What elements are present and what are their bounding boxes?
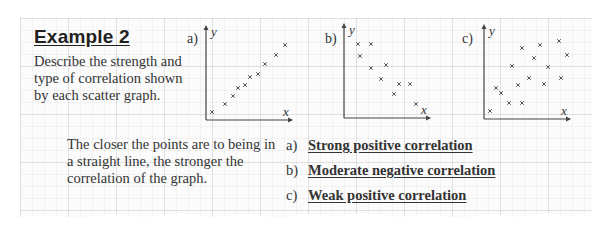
data-point-cross-icon [210,110,214,114]
data-point-cross-icon [236,86,240,90]
data-point-cross-icon [283,43,287,47]
data-point-cross-icon [507,101,511,105]
answer-letter: a) [286,137,308,154]
x-axis-label: x [560,103,567,118]
data-point-cross-icon [559,76,563,80]
data-point-cross-icon [542,82,546,86]
data-point-cross-icon [248,75,252,79]
answer-letter: b) [286,162,308,179]
answer-b: b) Moderate negative correlation [286,162,495,187]
data-point-cross-icon [263,62,267,66]
example-title: Example 2 [34,26,130,48]
answer-letter: c) [286,187,308,204]
data-point-cross-icon [358,54,362,58]
scatter-plot-c: yx [484,25,574,123]
data-point-cross-icon [397,82,401,86]
explanation-note: The closer the points are to being in a … [67,136,277,187]
data-point-cross-icon [369,42,373,46]
y-axis-label: y [209,24,217,39]
plot-a-label: a) [187,31,198,47]
data-point-cross-icon [532,56,536,60]
data-point-cross-icon [223,102,227,106]
data-point-cross-icon [557,39,561,43]
data-point-cross-icon [256,72,260,76]
plot-b-label: b) [325,31,337,47]
data-point-cross-icon [520,101,524,105]
data-point-cross-icon [274,53,278,57]
data-point-cross-icon [356,42,360,46]
x-axis-label: x [282,104,289,119]
answer-a: a) Strong positive correlation [286,137,495,162]
answer-text: Moderate negative correlation [308,162,495,179]
data-point-cross-icon [565,53,569,57]
data-point-cross-icon [243,83,247,87]
y-axis-label: y [487,23,495,38]
x-axis-label: x [420,102,427,117]
data-point-cross-icon [231,94,235,98]
data-point-cross-icon [499,91,503,95]
data-point-cross-icon [516,83,520,87]
example-description: Describe the strength and type of correl… [34,53,194,104]
data-point-cross-icon [520,46,524,50]
data-point-cross-icon [546,65,550,69]
data-point-cross-icon [384,63,388,67]
data-point-cross-icon [392,92,396,96]
answers-list: a) Strong positive correlation b) Modera… [286,137,495,212]
y-axis-label: y [347,22,355,37]
plot-c-label: c) [462,31,473,47]
data-point-cross-icon [538,43,542,47]
data-point-cross-icon [494,86,498,90]
data-point-cross-icon [527,76,531,80]
data-point-cross-icon [488,109,492,113]
answer-text: Weak positive correlation [308,187,466,204]
data-point-cross-icon [408,82,412,86]
data-point-cross-icon [379,77,383,81]
answer-c: c) Weak positive correlation [286,187,495,212]
scatter-plot-a: yx [206,26,296,124]
data-point-cross-icon [510,64,514,68]
scatter-plot-b: yx [344,24,434,122]
data-point-cross-icon [369,66,373,70]
answer-text: Strong positive correlation [308,137,473,154]
data-point-cross-icon [414,102,418,106]
